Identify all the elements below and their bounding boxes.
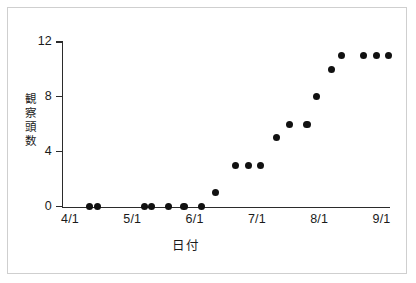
y-axis-tick-label: 0 — [12, 200, 52, 213]
y-axis-title: 観察頭数 — [22, 92, 38, 148]
data-point — [328, 66, 335, 73]
y-axis-line — [62, 41, 63, 208]
data-point — [273, 134, 280, 141]
data-point — [303, 121, 310, 128]
chart-figure: 12840 4/15/16/17/18/19/1 観察頭数 日付 — [0, 0, 416, 283]
data-point — [360, 52, 367, 59]
data-point — [313, 93, 320, 100]
data-point — [212, 189, 219, 196]
data-point — [148, 203, 155, 210]
data-point — [86, 203, 93, 210]
x-axis-tick-label: 4/1 — [40, 213, 100, 226]
x-axis-tick-label: 9/1 — [352, 213, 412, 226]
y-axis-title-char: 数 — [22, 134, 38, 148]
scatter-plot-area: 12840 4/15/16/17/18/19/1 観察頭数 日付 — [0, 0, 416, 283]
data-point — [198, 203, 205, 210]
data-point — [245, 162, 252, 169]
data-point — [94, 203, 101, 210]
x-axis-title-text: 日付 — [172, 239, 200, 253]
y-axis-tick — [56, 96, 62, 97]
x-axis-line — [62, 207, 390, 208]
y-axis-tick — [56, 151, 62, 152]
y-axis-title-char: 頭 — [22, 120, 38, 134]
data-point — [373, 52, 380, 59]
x-axis-tick-label: 5/1 — [102, 213, 162, 226]
data-point — [180, 203, 187, 210]
x-axis-tick-label: 7/1 — [227, 213, 287, 226]
data-point — [257, 162, 264, 169]
data-point — [141, 203, 148, 210]
y-axis-tick-label: 12 — [12, 35, 52, 48]
y-axis-title-char: 察 — [22, 106, 38, 120]
data-point — [165, 203, 172, 210]
x-axis-title: 日付 — [0, 235, 416, 254]
data-point — [286, 121, 293, 128]
x-axis-tick-label: 8/1 — [289, 213, 349, 226]
data-point — [338, 52, 345, 59]
data-point — [232, 162, 239, 169]
y-axis-tick — [56, 41, 62, 42]
y-axis-tick — [56, 206, 62, 207]
x-axis-tick-label: 6/1 — [165, 213, 225, 226]
y-axis-title-char: 観 — [22, 92, 38, 106]
data-point — [385, 52, 392, 59]
